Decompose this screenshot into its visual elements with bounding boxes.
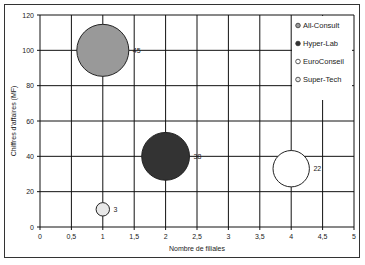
y-tick-label: 100 <box>22 47 34 54</box>
x-tick-label: 2,5 <box>192 233 202 240</box>
y-tick-label: 20 <box>26 188 34 195</box>
data-label: 3 <box>114 206 118 213</box>
x-tick-label: 3,5 <box>255 233 265 240</box>
legend-item: EuroConseil <box>296 57 344 66</box>
legend-item: All-Consult <box>296 21 340 30</box>
x-tick-label: 2 <box>164 233 168 240</box>
legend-marker-icon <box>296 23 301 28</box>
bubble-super-tech: 3 <box>96 203 117 216</box>
x-tick-label: 1 <box>101 233 105 240</box>
bubbles: 4538223 <box>77 24 321 216</box>
data-label: 38 <box>193 153 201 160</box>
legend-label: All-Consult <box>303 21 340 30</box>
x-axis-title: Nombre de filiales <box>169 245 226 252</box>
x-tick-label: 5 <box>352 233 356 240</box>
legend-marker-icon <box>296 41 301 46</box>
legend-label: Super-Tech <box>303 75 341 84</box>
legend-item: Super-Tech <box>296 75 342 84</box>
y-tick-label: 0 <box>30 224 34 231</box>
x-tick-label: 1,5 <box>129 233 139 240</box>
y-tick-label: 120 <box>22 12 34 19</box>
y-tick-label: 40 <box>26 153 34 160</box>
x-tick-label: 4 <box>289 233 293 240</box>
x-tick-label: 4,5 <box>318 233 328 240</box>
legend-marker-icon <box>296 77 301 82</box>
x-tick-label: 3 <box>226 233 230 240</box>
y-axis-title: Chiffres d'affaires (MF) <box>10 86 18 157</box>
y-tick-label: 60 <box>26 118 34 125</box>
data-label: 22 <box>313 165 321 172</box>
legend-label: EuroConseil <box>303 57 344 66</box>
bubble-chart: 00,511,522,533,544,55020406080100120 453… <box>0 0 365 265</box>
legend-label: Hyper-Lab <box>303 39 338 48</box>
x-tick-label: 0,5 <box>67 233 77 240</box>
x-tick-label: 0 <box>38 233 42 240</box>
legend: All-ConsultHyper-LabEuroConseilSuper-Tec… <box>292 16 352 100</box>
legend-marker-icon <box>296 59 301 64</box>
data-label: 45 <box>133 47 141 54</box>
y-tick-label: 80 <box>26 82 34 89</box>
legend-item: Hyper-Lab <box>296 39 338 48</box>
